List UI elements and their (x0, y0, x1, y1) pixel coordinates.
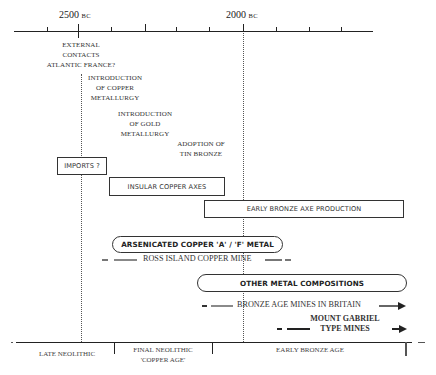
arrow-shaft (379, 305, 399, 307)
period-label: 'COPPER AGE' (118, 355, 208, 365)
box-insular-copper-axes: INSULAR COPPER AXES (109, 177, 225, 196)
dotted-guide-2500 (81, 74, 82, 342)
pill-other-metal-compositions: OTHER METAL COMPOSITIONS (197, 274, 407, 292)
mine-mount-gabriel: MOUNT GABRIEL TYPE MINES (305, 314, 385, 334)
axis-tick (145, 24, 146, 31)
period-label: LATE NEOLITHIC (30, 349, 104, 359)
axis-tick (47, 27, 48, 31)
period-final-neolithic: FINAL NEOLITHIC 'COPPER AGE' (118, 345, 208, 365)
year-era: BC (82, 12, 91, 19)
event-line: ADOPTION OF (168, 139, 234, 149)
year-era: BC (249, 12, 258, 19)
dash-segment (102, 259, 108, 261)
axis-tick-2500 (78, 24, 79, 38)
event-line: CONTACTS (36, 50, 126, 60)
period-divider (114, 342, 115, 354)
arrow-right-icon (398, 302, 406, 310)
year-label-2000: 2000 BC (226, 9, 258, 20)
event-line: INTRODUCTION (80, 73, 150, 83)
event-line: TIN BRONZE (168, 149, 234, 159)
axis-tick-2000 (243, 24, 244, 32)
top-timeline-axis (14, 31, 373, 32)
event-line: EXTERNAL (36, 40, 126, 50)
dash-segment (114, 259, 137, 261)
period-divider (405, 342, 407, 356)
box-early-bronze-axe-production: EARLY BRONZE AXE PRODUCTION (204, 200, 404, 218)
axis-tick (276, 27, 277, 31)
box-imports: IMPORTS ? (57, 157, 107, 175)
event-line: INTRODUCTION (110, 109, 180, 119)
axis-tick (176, 27, 177, 31)
mine-label: BRONZE AGE MINES IN BRITAIN (237, 300, 361, 309)
dash-segment (277, 328, 282, 330)
year-value: 2500 (59, 9, 79, 20)
arrow-right-icon (399, 325, 407, 333)
event-line: OF GOLD (110, 119, 180, 129)
event-gold-metallurgy: INTRODUCTION OF GOLD METALLURGY (110, 109, 180, 139)
pill-label: OTHER METAL COMPOSITIONS (240, 279, 364, 288)
dash-segment (211, 305, 233, 307)
period-late-neolithic: LATE NEOLITHIC (30, 349, 104, 359)
mine-label: ROSS ISLAND COPPER MINE (143, 254, 252, 263)
mine-ross-island: ROSS ISLAND COPPER MINE (143, 254, 252, 263)
mine-bronze-age-britain: BRONZE AGE MINES IN BRITAIN (237, 300, 361, 309)
period-axis (16, 342, 412, 343)
dash-segment (265, 259, 282, 261)
axis-tick (111, 27, 112, 31)
period-divider (212, 342, 213, 354)
period-label: FINAL NEOLITHIC (118, 345, 208, 355)
pill-label: ARSENICATED COPPER 'A' / 'F' METAL (121, 240, 274, 249)
dotted-guide-2000 (243, 33, 244, 342)
axis-tick (209, 27, 210, 31)
box-label: INSULAR COPPER AXES (128, 183, 207, 191)
year-value: 2000 (226, 9, 246, 20)
axis-tick (341, 27, 342, 31)
event-external-contacts: EXTERNAL CONTACTS ATLANTIC FRANCE? (36, 40, 126, 70)
mine-label-line: MOUNT GABRIEL (305, 314, 385, 324)
mine-label-line: TYPE MINES (305, 324, 385, 334)
box-label: IMPORTS ? (64, 162, 100, 170)
year-label-2500: 2500 BC (59, 9, 91, 20)
pill-arsenicated-copper: ARSENICATED COPPER 'A' / 'F' METAL (112, 236, 283, 253)
event-line: METALLURGY (80, 93, 150, 103)
event-line: METALLURGY (110, 129, 180, 139)
period-label: EARLY BRONZE AGE (260, 345, 360, 355)
event-tin-bronze: ADOPTION OF TIN BRONZE (168, 139, 234, 159)
period-early-bronze-age: EARLY BRONZE AGE (260, 345, 360, 355)
axis-tick (309, 27, 310, 31)
period-axis-dash-right (418, 342, 425, 343)
event-copper-metallurgy: INTRODUCTION OF COPPER METALLURGY (80, 73, 150, 103)
box-label: EARLY BRONZE AXE PRODUCTION (247, 205, 362, 213)
event-line: OF COPPER (80, 83, 150, 93)
dash-segment (285, 259, 291, 261)
event-line: ATLANTIC FRANCE? (36, 60, 126, 70)
period-axis-dash-left (11, 342, 13, 343)
dash-segment (202, 305, 207, 307)
